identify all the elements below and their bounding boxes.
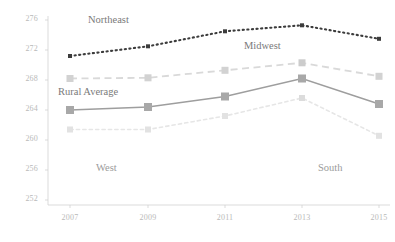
marker-south-west-2009 [145, 127, 151, 133]
marker-south-west-2015 [376, 133, 382, 139]
marker-midwest-2007 [67, 75, 74, 82]
y-tick-label-268: 268 [12, 74, 38, 83]
series-label-northeast: Northeast [88, 14, 129, 25]
series-line-northeast [68, 23, 381, 58]
marker-midwest-2015 [376, 73, 383, 80]
marker-rural-average-2015 [375, 100, 383, 108]
marker-rural-average-2013 [298, 75, 306, 83]
chart-plot-area [0, 0, 395, 242]
marker-south-west-2007 [67, 127, 73, 133]
y-tick-label-276: 276 [12, 14, 38, 23]
marker-rural-average-2011 [221, 93, 229, 101]
y-tick-label-252: 252 [12, 194, 38, 203]
series-label-south: South [318, 162, 343, 173]
series-label-midwest: Midwest [244, 40, 281, 51]
y-tick-marks [45, 20, 48, 200]
marker-south-west-2011 [222, 113, 228, 119]
x-tick-label-2009: 2009 [128, 213, 168, 222]
marker-northeast-2013 [300, 23, 304, 27]
marker-midwest-2013 [299, 59, 306, 66]
x-tick-label-2007: 2007 [50, 213, 90, 222]
y-tick-label-256: 256 [12, 164, 38, 173]
y-tick-label-264: 264 [12, 104, 38, 113]
marker-northeast-2011 [223, 29, 227, 33]
x-tick-label-2015: 2015 [359, 213, 395, 222]
x-tick-marks [70, 205, 379, 208]
marker-northeast-2015 [377, 37, 381, 41]
marker-northeast-2009 [146, 44, 150, 48]
series-label-rural-average: Rural Average [58, 86, 118, 97]
x-tick-label-2013: 2013 [282, 213, 322, 222]
marker-rural-average-2007 [66, 106, 74, 114]
series-line-south-west [67, 95, 382, 139]
x-tick-label-2011: 2011 [205, 213, 245, 222]
y-tick-label-260: 260 [12, 134, 38, 143]
marker-rural-average-2009 [144, 103, 152, 111]
rural-population-line-chart: 276 272 268 264 260 256 252 2007 2009 20… [0, 0, 395, 242]
series-label-west: West [96, 162, 117, 173]
marker-midwest-2009 [145, 74, 152, 81]
series-line-midwest [67, 59, 383, 82]
y-tick-label-272: 272 [12, 44, 38, 53]
marker-south-west-2013 [299, 95, 305, 101]
marker-midwest-2011 [222, 67, 229, 74]
marker-northeast-2007 [68, 54, 72, 58]
